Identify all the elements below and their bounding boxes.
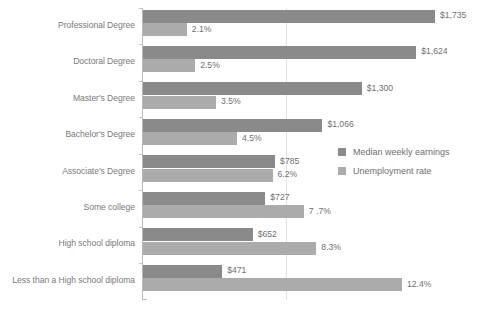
bar-value-label-unemployment: 12.4%: [407, 278, 431, 291]
legend-label-earnings: Median weekly earnings: [353, 147, 450, 157]
table-row: Master's Degree$1,3003.5%: [0, 81, 490, 118]
bar-earnings[interactable]: [143, 82, 362, 95]
bar-value-label-unemployment: 6.2%: [278, 168, 298, 181]
bar-unemployment[interactable]: [143, 205, 304, 218]
legend-label-unemployment: Unemployment rate: [353, 166, 432, 176]
bar-value-label-earnings: $1,735: [440, 9, 466, 22]
bar-value-label-earnings: $1,624: [421, 45, 447, 58]
bar-chart: Professional Degree$1,7352.1%Doctoral De…: [0, 0, 490, 319]
category-label: High school diploma: [10, 238, 135, 249]
bar-value-label-unemployment: 7 .7%: [309, 205, 331, 218]
bar-group: $6528.3%: [143, 227, 490, 264]
bar-value-label-unemployment: 3.5%: [221, 95, 241, 108]
table-row: Some college$7277 .7%: [0, 190, 490, 227]
category-label: Master's Degree: [10, 93, 135, 104]
bar-value-label-earnings: $1,300: [367, 82, 393, 95]
bar-unemployment[interactable]: [143, 23, 187, 36]
bar-group: $7277 .7%: [143, 190, 490, 227]
bar-value-label-earnings: $1,066: [327, 118, 353, 131]
category-label: Less than a High school diploma: [10, 275, 135, 286]
bar-earnings[interactable]: [143, 192, 265, 205]
bar-unemployment[interactable]: [143, 169, 273, 182]
legend-item-unemployment[interactable]: Unemployment rate: [338, 166, 450, 176]
bar-unemployment[interactable]: [143, 242, 316, 255]
table-row: Doctoral Degree$1,6242.5%: [0, 44, 490, 81]
chart-legend: Median weekly earnings Unemployment rate: [338, 147, 450, 185]
bar-earnings[interactable]: [143, 265, 222, 278]
bar-group: $1,7352.1%: [143, 8, 490, 45]
table-row: Less than a High school diploma$47112.4%: [0, 263, 490, 300]
table-row: Professional Degree$1,7352.1%: [0, 8, 490, 45]
bar-earnings[interactable]: [143, 119, 322, 132]
category-label: Some college: [10, 202, 135, 213]
bar-group: $1,3003.5%: [143, 81, 490, 118]
bar-value-label-earnings: $652: [258, 228, 277, 241]
bar-group: $47112.4%: [143, 263, 490, 300]
bar-unemployment[interactable]: [143, 96, 216, 109]
table-row: High school diploma$6528.3%: [0, 227, 490, 264]
bar-value-label-unemployment: 2.1%: [192, 23, 212, 36]
bar-value-label-unemployment: 2.5%: [200, 59, 220, 72]
legend-item-earnings[interactable]: Median weekly earnings: [338, 147, 450, 157]
bar-earnings[interactable]: [143, 46, 416, 59]
bar-value-label-earnings: $785: [280, 155, 299, 168]
bar-earnings[interactable]: [143, 155, 275, 168]
bar-group: $1,6242.5%: [143, 44, 490, 81]
bar-earnings[interactable]: [143, 228, 253, 241]
bar-unemployment[interactable]: [143, 278, 402, 291]
bar-unemployment[interactable]: [143, 132, 237, 145]
legend-swatch-earnings-icon: [338, 148, 346, 156]
category-label: Doctoral Degree: [10, 56, 135, 67]
category-label: Professional Degree: [10, 20, 135, 31]
bar-unemployment[interactable]: [143, 59, 195, 72]
bar-value-label-earnings: $727: [270, 191, 289, 204]
legend-swatch-unemployment-icon: [338, 167, 346, 175]
bar-earnings[interactable]: [143, 10, 435, 23]
category-label: Bachelor's Degree: [10, 129, 135, 140]
category-label: Associate's Degree: [10, 166, 135, 177]
bar-value-label-unemployment: 4.5%: [242, 132, 262, 145]
bar-value-label-earnings: $471: [227, 264, 246, 277]
bar-value-label-unemployment: 8.3%: [321, 241, 341, 254]
